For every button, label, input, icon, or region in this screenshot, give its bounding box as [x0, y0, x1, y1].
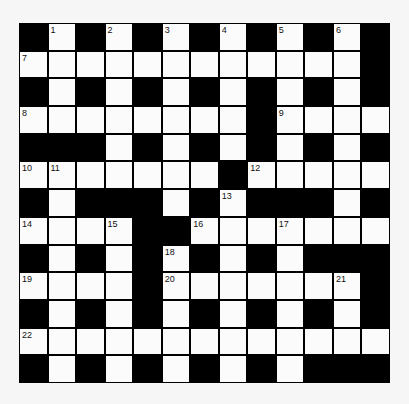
letter-cell[interactable]: 20 [163, 273, 190, 299]
letter-cell[interactable] [134, 107, 161, 133]
letter-cell[interactable] [277, 246, 304, 272]
letter-cell[interactable]: 22 [20, 329, 47, 355]
letter-cell[interactable] [277, 135, 304, 161]
letter-cell[interactable]: 9 [277, 107, 304, 133]
letter-cell[interactable] [49, 218, 76, 244]
letter-cell[interactable] [334, 79, 361, 105]
letter-cell[interactable] [362, 329, 389, 355]
letter-cell[interactable] [77, 329, 104, 355]
letter-cell[interactable] [163, 301, 190, 327]
letter-cell[interactable] [362, 218, 389, 244]
letter-cell[interactable] [220, 273, 247, 299]
letter-cell[interactable]: 17 [277, 218, 304, 244]
letter-cell[interactable] [49, 52, 76, 78]
letter-cell[interactable] [305, 52, 332, 78]
letter-cell[interactable] [77, 52, 104, 78]
letter-cell[interactable] [77, 162, 104, 188]
letter-cell[interactable] [220, 301, 247, 327]
letter-cell[interactable] [49, 190, 76, 216]
letter-cell[interactable] [106, 107, 133, 133]
letter-cell[interactable]: 21 [334, 273, 361, 299]
letter-cell[interactable] [334, 218, 361, 244]
letter-cell[interactable] [163, 79, 190, 105]
letter-cell[interactable] [305, 107, 332, 133]
letter-cell[interactable] [191, 52, 218, 78]
letter-cell[interactable] [163, 135, 190, 161]
letter-cell[interactable] [191, 107, 218, 133]
letter-cell[interactable] [277, 273, 304, 299]
letter-cell[interactable] [305, 329, 332, 355]
letter-cell[interactable]: 19 [20, 273, 47, 299]
letter-cell[interactable] [220, 356, 247, 382]
letter-cell[interactable]: 2 [106, 24, 133, 50]
letter-cell[interactable] [163, 190, 190, 216]
letter-cell[interactable]: 4 [220, 24, 247, 50]
letter-cell[interactable] [248, 273, 275, 299]
letter-cell[interactable] [362, 162, 389, 188]
letter-cell[interactable]: 18 [163, 246, 190, 272]
letter-cell[interactable] [191, 162, 218, 188]
letter-cell[interactable] [334, 135, 361, 161]
letter-cell[interactable] [220, 218, 247, 244]
letter-cell[interactable]: 8 [20, 107, 47, 133]
letter-cell[interactable] [220, 329, 247, 355]
letter-cell[interactable] [49, 301, 76, 327]
letter-cell[interactable] [277, 79, 304, 105]
letter-cell[interactable] [334, 329, 361, 355]
letter-cell[interactable] [220, 52, 247, 78]
letter-cell[interactable] [334, 162, 361, 188]
letter-cell[interactable] [163, 329, 190, 355]
letter-cell[interactable] [49, 273, 76, 299]
letter-cell[interactable]: 13 [220, 190, 247, 216]
letter-cell[interactable] [277, 329, 304, 355]
letter-cell[interactable]: 7 [20, 52, 47, 78]
letter-cell[interactable] [106, 79, 133, 105]
letter-cell[interactable] [163, 356, 190, 382]
letter-cell[interactable] [49, 79, 76, 105]
letter-cell[interactable]: 11 [49, 162, 76, 188]
letter-cell[interactable] [134, 52, 161, 78]
letter-cell[interactable] [334, 190, 361, 216]
letter-cell[interactable]: 16 [191, 218, 218, 244]
letter-cell[interactable]: 10 [20, 162, 47, 188]
letter-cell[interactable] [220, 135, 247, 161]
letter-cell[interactable] [305, 273, 332, 299]
letter-cell[interactable] [106, 273, 133, 299]
letter-cell[interactable]: 3 [163, 24, 190, 50]
letter-cell[interactable]: 12 [248, 162, 275, 188]
letter-cell[interactable] [106, 356, 133, 382]
letter-cell[interactable] [49, 356, 76, 382]
letter-cell[interactable]: 14 [20, 218, 47, 244]
letter-cell[interactable] [106, 135, 133, 161]
letter-cell[interactable] [163, 52, 190, 78]
letter-cell[interactable] [77, 107, 104, 133]
letter-cell[interactable] [77, 218, 104, 244]
letter-cell[interactable] [163, 107, 190, 133]
letter-cell[interactable] [106, 52, 133, 78]
letter-cell[interactable] [49, 107, 76, 133]
letter-cell[interactable] [305, 162, 332, 188]
letter-cell[interactable] [220, 246, 247, 272]
letter-cell[interactable]: 15 [106, 218, 133, 244]
letter-cell[interactable] [277, 52, 304, 78]
letter-cell[interactable] [220, 107, 247, 133]
letter-cell[interactable] [362, 107, 389, 133]
letter-cell[interactable] [248, 218, 275, 244]
letter-cell[interactable] [334, 301, 361, 327]
letter-cell[interactable] [49, 246, 76, 272]
letter-cell[interactable] [305, 218, 332, 244]
letter-cell[interactable] [163, 162, 190, 188]
letter-cell[interactable] [134, 329, 161, 355]
letter-cell[interactable] [277, 356, 304, 382]
letter-cell[interactable] [106, 162, 133, 188]
letter-cell[interactable] [334, 107, 361, 133]
letter-cell[interactable]: 1 [49, 24, 76, 50]
letter-cell[interactable]: 5 [277, 24, 304, 50]
letter-cell[interactable] [191, 329, 218, 355]
letter-cell[interactable] [106, 301, 133, 327]
letter-cell[interactable] [248, 329, 275, 355]
letter-cell[interactable] [334, 52, 361, 78]
letter-cell[interactable] [106, 246, 133, 272]
letter-cell[interactable] [49, 329, 76, 355]
letter-cell[interactable] [277, 301, 304, 327]
